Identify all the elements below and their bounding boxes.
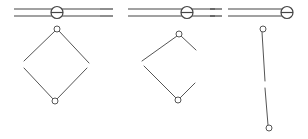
- linkage-arm: [144, 66, 176, 98]
- linkage-arm: [180, 83, 195, 98]
- linkage-arm: [24, 68, 53, 99]
- linkage-diagram: [0, 0, 308, 139]
- bottom-joint-icon: [175, 97, 181, 103]
- panel-stage-3: [210, 7, 293, 132]
- top-joint-icon: [260, 26, 266, 32]
- panel-stage-1: [14, 7, 100, 105]
- top-joint-icon: [176, 31, 182, 37]
- linkage-arms: [24, 26, 89, 104]
- bottom-joint-icon: [266, 125, 272, 131]
- double-rail: [210, 7, 293, 19]
- linkage-arm: [142, 36, 177, 61]
- panel-stage-2: [100, 7, 215, 104]
- linkage-arm: [59, 31, 89, 63]
- linkage-arms: [260, 26, 272, 131]
- linkage-arm: [181, 36, 196, 50]
- double-rail: [14, 7, 100, 19]
- linkage-arms: [142, 31, 196, 103]
- linkage-arm: [265, 88, 268, 125]
- linkage-arm: [57, 68, 87, 99]
- double-rail: [100, 7, 215, 19]
- top-joint-icon: [54, 26, 60, 32]
- bottom-joint-icon: [52, 98, 58, 104]
- linkage-arm: [24, 31, 55, 61]
- linkage-arm: [262, 32, 265, 81]
